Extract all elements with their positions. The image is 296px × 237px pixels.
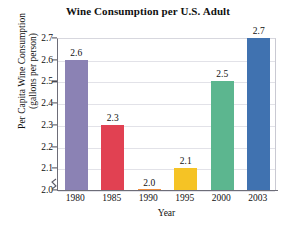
bar-chart-figure: Wine Consumption per U.S. Adult Per Capi…: [0, 0, 296, 237]
bar: [211, 81, 234, 190]
y-tick-label: 2.1: [27, 163, 53, 173]
bar: [247, 38, 270, 190]
bar: [101, 125, 124, 190]
x-tick-label: 2003: [235, 193, 281, 203]
bar-value-label: 2.3: [93, 113, 133, 123]
y-tick-mark: [52, 59, 57, 60]
y-tick-mark: [52, 146, 57, 147]
gridline: [58, 148, 275, 149]
bar-value-label: 2.6: [56, 48, 96, 58]
bar-column: 2.3: [101, 38, 124, 190]
y-tick-label: 2.0: [27, 185, 53, 195]
bar-column: 2.5: [211, 38, 234, 190]
bar-column: 2.7: [247, 38, 270, 190]
bar-value-label: 2.1: [166, 156, 206, 166]
y-tick-label: 2.7: [27, 33, 53, 43]
bar: [174, 168, 197, 190]
gridline: [58, 126, 275, 127]
x-axis-title: Year: [57, 208, 276, 218]
y-tick-label: 2.2: [27, 142, 53, 152]
y-tick-mark: [52, 168, 57, 169]
bar-column: 2.0: [138, 38, 161, 190]
gridline: [58, 61, 275, 62]
y-tick-mark: [52, 81, 57, 82]
y-tick-mark: [52, 124, 57, 125]
bar-column: 2.1: [174, 38, 197, 190]
y-tick-mark: [52, 37, 57, 38]
gridline: [58, 82, 275, 83]
y-tick-label: 2.5: [27, 76, 53, 86]
bar-value-label: 2.0: [129, 178, 169, 188]
bar-value-label: 2.7: [239, 26, 279, 36]
y-tick-mark: [52, 103, 57, 104]
y-tick-label: 2.6: [27, 55, 53, 65]
bar: [65, 60, 88, 190]
gridline: [58, 104, 275, 105]
y-tick-label: 2.4: [27, 98, 53, 108]
bar-value-label: 2.5: [202, 69, 242, 79]
plot-area: 2.62.32.02.12.52.7: [57, 38, 276, 190]
y-tick-label: 2.3: [27, 120, 53, 130]
chart-title: Wine Consumption per U.S. Adult: [0, 5, 296, 17]
x-axis-line: [57, 190, 278, 191]
gridline: [58, 169, 275, 170]
bar-column: 2.6: [65, 38, 88, 190]
y-axis-title-line1: Per Capita Wine Consumption: [17, 13, 27, 129]
